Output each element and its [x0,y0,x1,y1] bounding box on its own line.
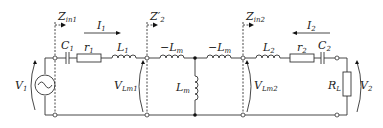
r1-label: r1 [84,41,94,55]
inductor-lm [195,76,198,100]
inductor-l1 [112,55,136,58]
neg-lm-label-2: −Lm [208,41,232,55]
z2-label: Z′2 [149,10,165,24]
i1-label: I1 [96,19,106,33]
v1-label: V1 [15,79,27,93]
equivalent-circuit: Zin1 Z′2 Zin2 I1 I2 C1 r1 L1 −Lm −Lm Lm … [0,0,383,128]
vlm2-label: VLm2 [254,79,278,93]
zin1-label: Zin1 [57,10,77,24]
v2-label: V2 [360,79,373,93]
neg-lm-label-1: −Lm [160,41,184,55]
rl-label: RL [327,79,341,93]
inductor-neg-lm-2 [207,55,231,58]
l2-label: L2 [262,41,275,55]
inductor-l2 [256,55,280,58]
vlm1-label: VLm1 [114,79,138,93]
lm-label: Lm [175,81,190,95]
c1-label: C1 [61,39,74,53]
l1-label: L1 [116,41,129,55]
sine-icon [38,82,52,88]
circuit-diagram: Zin1 Z′2 Zin2 I1 I2 C1 r1 L1 −Lm −Lm Lm … [0,0,383,128]
resistor-r1 [77,54,101,62]
c2-label: C2 [318,39,331,53]
r2-label: r2 [297,41,307,55]
zin2-label: Zin2 [245,10,265,24]
resistor-rl [343,72,351,96]
inductor-neg-lm-1 [160,55,184,58]
source-wire-top [45,58,55,74]
i2-label: I2 [306,19,316,33]
resistor-r2 [290,54,314,62]
